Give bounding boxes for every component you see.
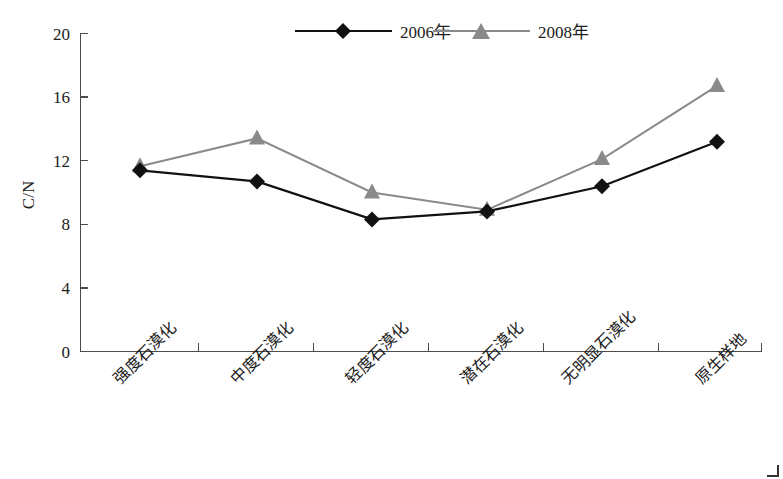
series-line-2006 xyxy=(140,142,717,220)
y-tick-label-20: 20 xyxy=(53,25,70,44)
legend-label-2008: 2008年 xyxy=(538,23,589,42)
y-tick-label-8: 8 xyxy=(62,215,71,234)
page-corner-mark xyxy=(767,465,779,477)
line-chart-plot: 20 16 12 8 4 0 C/N xyxy=(0,0,783,479)
y-tick-label-16: 16 xyxy=(53,88,70,107)
chart-container: 20 16 12 8 4 0 C/N xyxy=(0,0,783,479)
y-tick-label-4: 4 xyxy=(62,279,71,298)
legend-item-2008[interactable]: 2008年 xyxy=(433,23,589,42)
y-axis-ticks xyxy=(81,34,89,352)
series-line-2008 xyxy=(140,86,717,210)
y-tick-label-0: 0 xyxy=(62,343,71,362)
chart-legend: 2006年 2008年 xyxy=(295,23,589,42)
y-axis-title: C/N xyxy=(19,181,38,209)
legend-item-2006[interactable]: 2006年 xyxy=(295,23,451,42)
legend-diamond-marker-icon xyxy=(335,23,351,39)
y-tick-label-12: 12 xyxy=(53,152,70,171)
legend-label-2006: 2006年 xyxy=(400,23,451,42)
